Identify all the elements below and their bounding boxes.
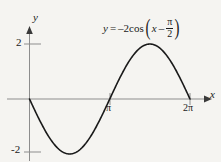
x-tick-label-2pi: 2π: [183, 103, 193, 113]
equation-function: cos: [129, 23, 144, 34]
x-axis-label: x: [210, 89, 215, 100]
equation-annotation: y = –2 cos ( x – π 2 ): [103, 17, 181, 39]
y-tick-label-2: 2: [16, 37, 22, 48]
equation-lhs: y: [103, 23, 108, 34]
fraction-numerator: π: [166, 17, 173, 28]
equation-open-paren: (: [145, 18, 150, 38]
y-axis-label: y: [33, 12, 38, 23]
equation-argument-operator: –: [159, 23, 165, 34]
graph-figure: y x 2 -2 π 2π y = –2 cos ( x – π 2 ): [0, 0, 221, 162]
y-axis-arrowhead: [26, 26, 33, 34]
y-tick-label-negative-2: -2: [11, 144, 20, 155]
fraction-denominator: 2: [166, 29, 173, 40]
equation-equals: =: [110, 23, 116, 34]
equation-close-paren: ): [175, 18, 180, 38]
x-tick-label-pi: π: [106, 103, 111, 113]
equation-coefficient: –2: [118, 23, 129, 34]
equation-argument-variable: x: [152, 23, 157, 34]
equation-fraction: π 2: [166, 17, 173, 39]
